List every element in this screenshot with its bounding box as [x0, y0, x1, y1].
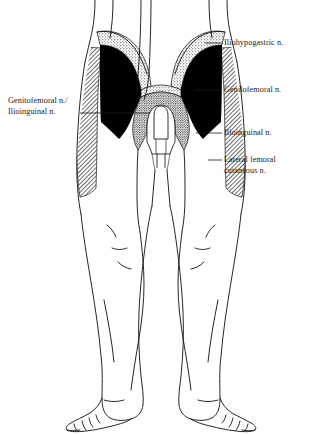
label-left-line1: Genitofemoral n./ — [8, 96, 68, 105]
label-genitofemoral-nerve: Genilofemoral n. — [224, 85, 281, 96]
label-left-line2: Ilioinguinal n. — [8, 107, 56, 116]
anatomy-illustration — [0, 0, 322, 434]
anatomy-figure: Iliohypogastric n. Genilofemoral n. Ilio… — [0, 0, 322, 434]
label-iliohypogastric-nerve: Iliohypogastric n. — [224, 38, 283, 49]
label-lateral-femoral-line2: cutaneous n. — [224, 166, 266, 175]
label-ilioinguinal-nerve: Ilioinguinal n. — [224, 128, 272, 139]
label-lateral-femoral-line1: Lateral femoral — [224, 155, 276, 164]
region-ilioinguinal — [133, 92, 190, 170]
label-lateral-femoral-cutaneous-nerve: Lateral femoralcutaneous n. — [224, 155, 276, 176]
label-genitofemoral-ilioinguinal-nerve: Genitofemoral n./Ilioinguinal n. — [8, 96, 68, 117]
